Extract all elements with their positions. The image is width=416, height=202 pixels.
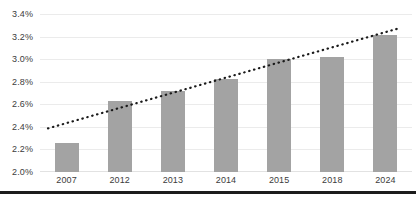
bar-chart: 3.4% 3.2% 3.0% 2.8% 2.6% 2.4% 2.2% 2.0% [0, 0, 416, 202]
bar-2007 [55, 143, 79, 172]
bar-2012 [108, 101, 132, 172]
bar-2014 [214, 79, 238, 172]
x-tick-label-2012: 2012 [109, 175, 129, 185]
x-tick-label-2013: 2013 [163, 175, 183, 185]
y-tick-label: 2.6% [12, 99, 33, 109]
x-axis: 2007 2012 2013 2014 2015 2018 2024 [40, 172, 412, 190]
y-tick-label: 3.0% [12, 54, 33, 64]
x-tick-label-2014: 2014 [216, 175, 236, 185]
bar-2018 [320, 57, 344, 173]
bar-slot [40, 14, 93, 172]
x-tick-label-2018: 2018 [322, 175, 342, 185]
y-tick-label: 3.2% [12, 32, 33, 42]
x-tick-label-2007: 2007 [56, 175, 76, 185]
bar-2013 [161, 91, 185, 172]
bottom-divider [0, 191, 416, 194]
y-tick-label: 2.4% [12, 122, 33, 132]
bar-slot [253, 14, 306, 172]
y-tick-label: 2.8% [12, 77, 33, 87]
bar-slot [306, 14, 359, 172]
bar-2024 [373, 35, 397, 172]
y-tick-label: 2.0% [12, 167, 33, 177]
x-tick-label-2024: 2024 [375, 175, 395, 185]
bar-slot [146, 14, 199, 172]
bar-slot [359, 14, 412, 172]
y-tick-label: 2.2% [12, 144, 33, 154]
y-axis: 3.4% 3.2% 3.0% 2.8% 2.6% 2.4% 2.2% 2.0% [0, 0, 38, 202]
bar-slot [93, 14, 146, 172]
bar-2015 [267, 59, 291, 172]
y-tick-label: 3.4% [12, 9, 33, 19]
bars-layer [40, 14, 412, 172]
bar-slot [199, 14, 252, 172]
x-tick-label-2015: 2015 [269, 175, 289, 185]
